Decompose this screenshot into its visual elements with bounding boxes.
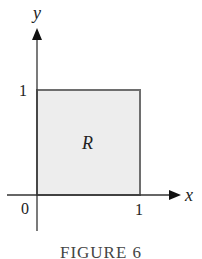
region-label: R [81, 133, 93, 153]
y-axis-label: y [31, 3, 41, 23]
x-tick-label: 1 [135, 201, 143, 218]
y-tick-label: 1 [19, 82, 27, 99]
y-axis-arrow-icon [32, 28, 42, 40]
x-axis-arrow-icon [169, 190, 181, 200]
diagram-canvas: y x 1 0 1 R [0, 0, 202, 259]
origin-label: 0 [21, 200, 29, 217]
x-axis-label: x [184, 185, 193, 205]
figure-caption: FIGURE 6 [0, 243, 202, 259]
